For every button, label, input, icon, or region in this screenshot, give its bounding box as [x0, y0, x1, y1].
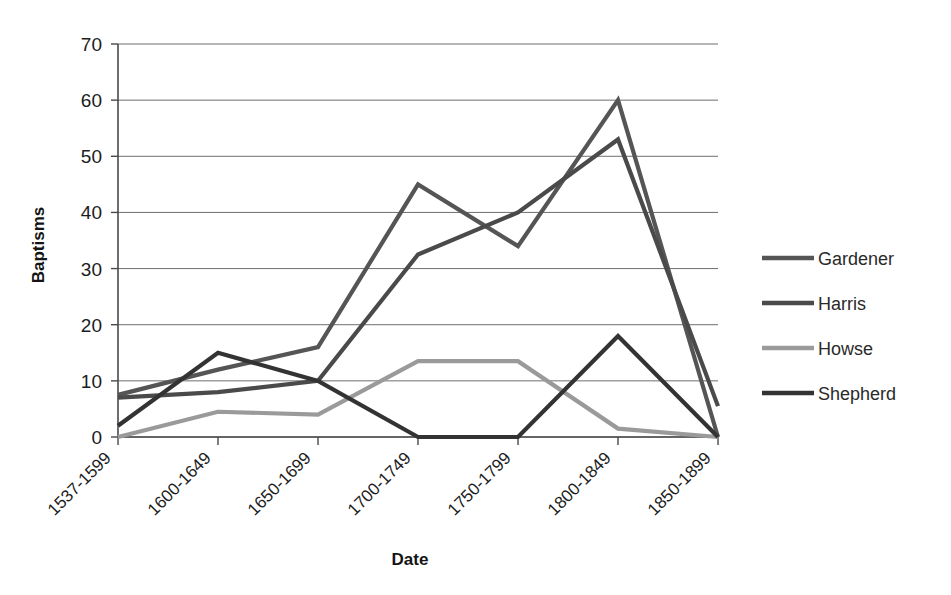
y-axis-title: Baptisms — [29, 207, 48, 284]
y-tick-label: 70 — [81, 34, 102, 55]
y-tick-label: 50 — [81, 146, 102, 167]
y-tick-label: 0 — [91, 427, 102, 448]
x-axis-title: Date — [392, 550, 429, 569]
y-tick-label: 20 — [81, 315, 102, 336]
y-tick-label: 40 — [81, 202, 102, 223]
y-tick-label: 10 — [81, 371, 102, 392]
legend-label-howse: Howse — [818, 339, 873, 359]
y-tick-label: 60 — [81, 90, 102, 111]
line-chart: 010203040506070 1537-15991600-16491650-1… — [0, 0, 951, 595]
y-tick-label: 30 — [81, 259, 102, 280]
legend-label-harris: Harris — [818, 294, 866, 314]
legend-label-gardener: Gardener — [818, 249, 894, 269]
legend-label-shepherd: Shepherd — [818, 384, 896, 404]
chart-container: 010203040506070 1537-15991600-16491650-1… — [0, 0, 951, 595]
